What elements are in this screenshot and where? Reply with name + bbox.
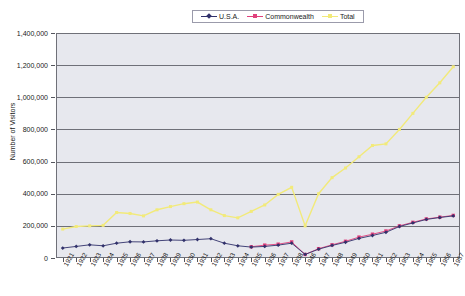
y-axis-tick-mark <box>51 65 55 66</box>
y-axis-tick-mark <box>51 162 55 163</box>
y-axis-tick-label: 200,000 <box>0 222 48 229</box>
gridline <box>57 65 459 66</box>
gridline <box>57 129 459 130</box>
y-axis-tick-label: 800,000 <box>0 126 48 133</box>
x-axis: 1921192219231924192519261927192819291930… <box>56 258 460 296</box>
legend-label: U.S.A. <box>219 13 239 21</box>
y-axis-tick-mark <box>51 194 55 195</box>
legend-label: Commonwealth <box>265 13 314 21</box>
legend-item-total[interactable]: Total <box>322 13 355 21</box>
y-axis-tick-label: 400,000 <box>0 190 48 197</box>
gridline <box>57 226 459 227</box>
legend-square-marker-icon <box>247 13 263 20</box>
gridline <box>57 97 459 98</box>
gridline <box>57 194 459 195</box>
legend-square-marker-icon <box>322 13 338 20</box>
y-axis-tick-label: 1,400,000 <box>0 30 48 37</box>
chart-legend: U.S.A.CommonwealthTotal <box>192 10 364 23</box>
y-axis-tick-label: 0 <box>0 255 48 262</box>
y-axis-tick-mark <box>51 226 55 227</box>
y-axis-tick-label: 1,000,000 <box>0 94 48 101</box>
y-axis-tick-label: 600,000 <box>0 158 48 165</box>
legend-item-u-s-a[interactable]: U.S.A. <box>201 13 239 21</box>
plot-area <box>56 33 460 258</box>
y-axis-tick-label: 1,200,000 <box>0 62 48 69</box>
gridline <box>57 162 459 163</box>
legend-label: Total <box>340 13 355 21</box>
visitors-line-chart: U.S.A.CommonwealthTotal 1,400,0001,200,0… <box>0 0 465 296</box>
y-axis-tick-mark <box>51 129 55 130</box>
legend-item-commonwealth[interactable]: Commonwealth <box>247 13 314 21</box>
y-axis-tick-mark <box>51 33 55 34</box>
legend-diamond-marker-icon <box>201 13 217 20</box>
y-axis-tick-mark <box>51 258 55 259</box>
y-axis-title: Number of Visitors <box>9 92 16 172</box>
y-axis-tick-mark <box>51 97 55 98</box>
